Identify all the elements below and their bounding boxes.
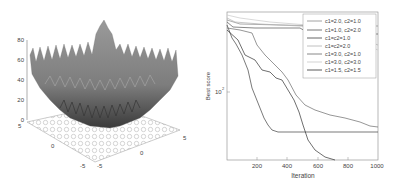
z-tick: 80 [17,37,24,43]
x-tick: 600 [313,163,324,169]
y-tick: -5 [80,163,86,169]
x-tick: 800 [343,163,354,169]
z-tick: 40 [17,77,24,83]
z-tick: 20 [17,97,24,103]
convergence-chart-panel: c1=2.0, c2=1.0 c1=1.0, c2=2.0 c1=c2=1.0 … [200,0,397,184]
z-tick: 60 [17,57,24,63]
legend-label: c1=c2=1.0 [325,35,350,41]
x-tick: -5 [97,163,103,169]
surface-plot: 80 60 40 20 0 5 0 -5 -5 [0,0,200,184]
y-axis-label: Best score [205,71,211,100]
legend-label: c1=2.0, c2=1.0 [325,18,361,24]
legend-label: c1=3.0, c2=1.0 [325,51,361,57]
x-tick: 5 [183,135,187,141]
surface-plot-panel: 80 60 40 20 0 5 0 -5 -5 [0,0,200,184]
surface-mesh [30,20,178,128]
legend-label: c1=3.0, c2=3.0 [325,59,361,65]
x-tick: 0 [140,150,144,156]
y-tick: 5 [18,123,22,129]
legend-label: c1=c2=2.0 [325,43,350,49]
x-tick: 1000 [370,163,384,169]
legend-label: c1=1.5, c2=1.5 [325,67,361,73]
legend: c1=2.0, c2=1.0 c1=1.0, c2=2.0 c1=c2=1.0 … [303,14,376,78]
legend-label: c1=1.0, c2=2.0 [325,27,361,33]
x-tick: 400 [282,163,293,169]
x-axis-label: Iteration [291,172,315,179]
convergence-chart: c1=2.0, c2=1.0 c1=1.0, c2=2.0 c1=c2=1.0 … [200,0,397,184]
y-tick-exponent: 2 [222,86,225,91]
y-tick: 0 [51,143,55,149]
x-tick: 200 [252,163,263,169]
